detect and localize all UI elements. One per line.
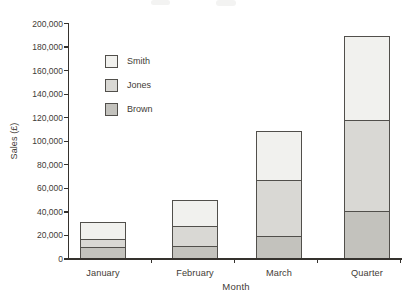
y-tick-label: 200,000: [32, 19, 63, 29]
bar-segment-january-brown: [81, 247, 126, 259]
bar-segment-march-smith: [257, 132, 302, 180]
bar-segment-february-brown: [173, 246, 218, 259]
x-axis-title: Month: [222, 281, 249, 292]
bar-segment-quarter-jones: [345, 120, 390, 212]
legend-swatch-brown: [105, 103, 118, 116]
legend-label-jones: Jones: [127, 80, 151, 90]
bar-segment-february-jones: [173, 226, 218, 246]
stacked-bar-chart-figure: 020,00040,00060,00080,000100,000120,0001…: [0, 0, 407, 299]
y-tick-label: 180,000: [32, 42, 63, 52]
y-tick-label: 160,000: [32, 66, 63, 76]
scan-artifact: [216, 0, 236, 6]
legend-item-brown: Brown: [105, 103, 153, 115]
y-tick-label: 120,000: [32, 113, 63, 123]
legend-item-smith: Smith: [105, 55, 153, 67]
y-tick-label: 140,000: [32, 89, 63, 99]
bar-segment-quarter-brown: [345, 212, 390, 259]
y-tick-label: 20,000: [37, 230, 63, 240]
category-label-march: March: [266, 268, 292, 278]
bar-segment-january-smith: [81, 223, 126, 240]
y-tick-label: 80,000: [37, 160, 63, 170]
bar-segment-quarter-smith: [345, 37, 390, 121]
legend-swatch-smith: [105, 55, 118, 68]
y-tick-label: 40,000: [37, 207, 63, 217]
legend: SmithJonesBrown: [105, 55, 153, 127]
bar-segment-january-jones: [81, 239, 126, 247]
bar-segment-march-jones: [257, 180, 302, 237]
y-tick-label: 60,000: [37, 183, 63, 193]
y-tick-label: 0: [58, 254, 63, 264]
scan-artifact: [151, 0, 170, 5]
legend-swatch-jones: [105, 79, 118, 92]
category-label-january: January: [86, 268, 120, 278]
y-tick-label: 100,000: [32, 136, 63, 146]
legend-label-brown: Brown: [127, 104, 153, 114]
legend-item-jones: Jones: [105, 79, 153, 91]
y-axis-title: Sales (£): [9, 123, 19, 160]
category-label-february: February: [176, 268, 214, 278]
plot-canvas: 020,00040,00060,00080,000100,000120,0001…: [0, 0, 407, 299]
bar-segment-february-smith: [173, 200, 218, 226]
category-label-quarter: Quarter: [351, 268, 383, 278]
bar-segment-march-brown: [257, 237, 302, 259]
legend-label-smith: Smith: [127, 56, 150, 66]
